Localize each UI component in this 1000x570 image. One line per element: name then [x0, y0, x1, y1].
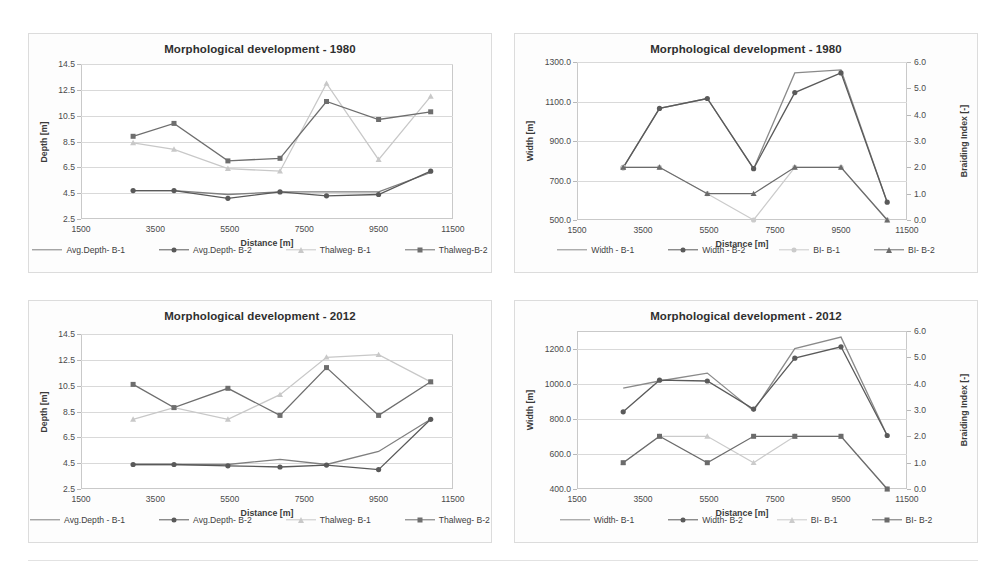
y-axis-right-tick-mark	[907, 357, 911, 358]
y-axis-right-tick-label: 0.0	[914, 484, 948, 494]
legend-key-icon	[159, 245, 189, 255]
series-marker	[792, 356, 797, 361]
series-marker	[839, 434, 844, 439]
y-axis-tick-mark	[77, 386, 81, 387]
series-marker	[657, 378, 662, 383]
series-marker	[171, 188, 176, 193]
legend-item[interactable]: BI- B-2	[872, 515, 933, 525]
y-axis-right-tick-label: 2.0	[914, 431, 948, 441]
y-axis-tick-mark	[573, 181, 577, 182]
y-axis-title: Width [m]	[525, 121, 535, 161]
legend-item[interactable]: Width - B-2	[668, 245, 745, 255]
y-axis-tick-label: 4.5	[29, 188, 75, 198]
y-axis-right-tick-mark	[907, 384, 911, 385]
legend-item[interactable]: BI- B-1	[779, 245, 840, 255]
plot-area	[81, 334, 453, 489]
y-axis-tick-mark	[573, 349, 577, 350]
series-line	[623, 337, 887, 435]
legend-marker-icon	[417, 248, 422, 253]
y-axis-right-tick-mark	[907, 220, 911, 221]
legend-label: Avg.Depth- B-2	[193, 515, 252, 525]
series-marker	[172, 121, 177, 126]
y-axis-right-tick-label: 0.0	[914, 215, 948, 225]
y-axis-right-tick-mark	[907, 489, 911, 490]
legend-key-icon	[779, 245, 809, 255]
y-axis-tick-label: 4.5	[29, 458, 75, 468]
series-marker	[885, 200, 890, 205]
y-axis-right-tick-label: 6.0	[914, 57, 948, 67]
y-axis-tick-mark	[77, 412, 81, 413]
series-marker	[705, 378, 710, 383]
y-axis-tick-label: 6.5	[29, 162, 75, 172]
legend-item[interactable]: Avg.Depth - B-1	[30, 515, 125, 525]
series-layer	[577, 62, 907, 220]
legend-label: BI- B-1	[811, 515, 838, 525]
series-marker	[885, 487, 890, 492]
legend-label: Width - B-2	[702, 245, 745, 255]
series-line	[133, 419, 431, 469]
legend-item[interactable]: Thalweg-B-2	[405, 245, 488, 255]
series-marker	[171, 462, 176, 467]
legend-label: Width- B-1	[594, 515, 635, 525]
x-axis-tick-label: 1500	[567, 494, 586, 504]
x-axis-tick-label: 7500	[295, 494, 314, 504]
legend-key-icon	[777, 515, 807, 525]
series-marker	[277, 464, 282, 469]
plot-area	[577, 331, 907, 489]
y-axis-right-tick-label: 3.0	[914, 405, 948, 415]
legend-item[interactable]: Width - B-1	[557, 245, 634, 255]
series-marker	[225, 463, 230, 468]
chart-panel-depth-1980: Morphological development - 19802.54.56.…	[28, 33, 492, 273]
legend-item[interactable]: Avg.Depth- B-2	[159, 245, 252, 255]
legend-item[interactable]: BI- B-1	[777, 515, 838, 525]
series-marker	[376, 467, 381, 472]
y-axis-right-tick-mark	[907, 436, 911, 437]
legend-label: Width- B-2	[702, 515, 743, 525]
x-axis-tick-label: 7500	[295, 224, 314, 234]
legend-key-icon	[557, 245, 587, 255]
y-axis-right-tick-mark	[907, 410, 911, 411]
legend-item[interactable]: Width- B-2	[668, 515, 743, 525]
series-marker	[324, 365, 329, 370]
y-axis-tick-mark	[573, 454, 577, 455]
legend-label: BI- B-2	[908, 245, 935, 255]
series-marker	[428, 417, 433, 422]
legend-marker-icon	[789, 517, 795, 523]
legend-item[interactable]: Thalweg- B-2	[405, 515, 490, 525]
series-layer	[81, 334, 453, 489]
x-axis-tick-label: 5500	[699, 225, 718, 235]
y-axis-tick-mark	[77, 167, 81, 168]
figure-page: Morphological development - 19802.54.56.…	[0, 0, 1000, 570]
legend-item[interactable]: Avg.Depth- B-2	[159, 515, 252, 525]
series-marker	[225, 158, 230, 163]
legend-item[interactable]: Avg.Depth- B-1	[32, 245, 125, 255]
series-marker	[324, 463, 329, 468]
legend-item[interactable]: Width- B-1	[560, 515, 635, 525]
x-axis-tick-label: 11500	[895, 494, 918, 504]
legend-label: Thalweg- B-2	[439, 515, 490, 525]
y-axis-right-tick-label: 2.0	[914, 162, 948, 172]
legend-item[interactable]: BI- B-2	[874, 245, 935, 255]
chart-legend: Avg.Depth- B-1Avg.Depth- B-2Thalweg- B-1…	[29, 245, 491, 255]
series-marker	[324, 193, 329, 198]
legend-item[interactable]: Thalweg- B-1	[286, 515, 371, 525]
legend-key-icon	[872, 515, 902, 525]
legend-label: Thalweg- B-1	[320, 515, 371, 525]
series-marker	[885, 433, 890, 438]
x-axis-tick-label: 3500	[633, 225, 652, 235]
y-axis-tick-label: 700.0	[515, 176, 571, 186]
chart-panel-width-2012: Morphological development - 2012400.0600…	[514, 300, 978, 543]
x-axis-tick-label: 1500	[71, 494, 90, 504]
y-axis-tick-mark	[77, 489, 81, 490]
series-layer	[81, 64, 453, 219]
page-bottom-rule	[28, 560, 978, 561]
series-marker	[751, 434, 756, 439]
legend-item[interactable]: Thalweg- B-1	[286, 245, 371, 255]
y-axis-right-title: Braiding Index [-]	[959, 374, 969, 446]
legend-label: BI- B-1	[813, 245, 840, 255]
series-marker	[376, 117, 381, 122]
y-axis-tick-label: 1100.0	[515, 97, 571, 107]
y-axis-tick-label: 1200.0	[515, 344, 571, 354]
legend-key-icon	[668, 515, 698, 525]
series-marker	[751, 407, 756, 412]
